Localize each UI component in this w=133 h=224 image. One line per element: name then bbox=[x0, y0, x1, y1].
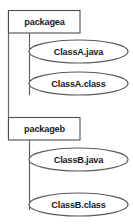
artifact-node-classa-class[interactable]: ClassA.class bbox=[29, 72, 128, 95]
package-label-packageb: packageb bbox=[24, 124, 65, 134]
artifact-node-classa-java[interactable]: ClassA.java bbox=[29, 40, 128, 63]
artifact-label-classa-java: ClassA.java bbox=[54, 47, 104, 57]
diagram-canvas: ClassA.java ClassA.class ClassB.java Cla… bbox=[0, 0, 133, 224]
package-node-packageb[interactable]: packageb bbox=[9, 118, 81, 141]
artifact-node-classb-java[interactable]: ClassB.java bbox=[29, 148, 128, 171]
package-node-packagea[interactable]: packagea bbox=[9, 11, 81, 34]
artifact-node-classb-class[interactable]: ClassB.class bbox=[29, 193, 128, 216]
artifact-label-classa-class: ClassA.class bbox=[51, 79, 105, 89]
artifact-label-classb-class: ClassB.class bbox=[51, 200, 105, 210]
artifact-label-classb-java: ClassB.java bbox=[54, 155, 104, 165]
package-label-packagea: packagea bbox=[24, 17, 65, 27]
package-diagram: ClassA.java ClassA.class ClassB.java Cla… bbox=[0, 0, 133, 224]
